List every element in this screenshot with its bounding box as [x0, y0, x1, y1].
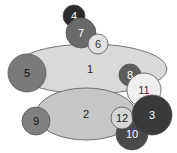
shape-label-12: 12: [116, 112, 128, 124]
shape-label-5: 5: [24, 67, 30, 79]
overlap-diagram: 125476891110123: [0, 0, 177, 153]
shape-label-7: 7: [78, 27, 84, 39]
shape-6: 6: [88, 34, 108, 54]
shape-label-11: 11: [138, 84, 149, 96]
shape-label-2: 2: [83, 108, 89, 120]
shape-3: 3: [132, 95, 172, 135]
shape-label-9: 9: [33, 115, 39, 127]
shape-label-1: 1: [87, 63, 93, 75]
shape-label-6: 6: [95, 38, 101, 50]
shape-5: 5: [8, 54, 46, 92]
shape-label-10: 10: [126, 128, 138, 140]
shape-9: 9: [22, 107, 50, 135]
shape-label-3: 3: [149, 109, 155, 121]
shape-12: 12: [111, 107, 133, 129]
